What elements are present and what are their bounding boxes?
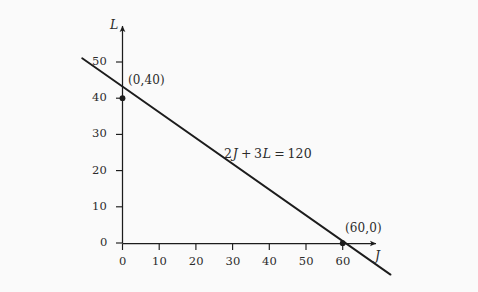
x-tick-label-60: 60 (336, 256, 351, 268)
point-label-60-0: (60,0) (345, 222, 382, 234)
y-tick-label-10: 10 (92, 201, 107, 213)
x-tick-label-30: 30 (225, 256, 240, 268)
point-marker-60-0 (340, 240, 346, 246)
x-axis-label: J (375, 250, 380, 263)
y-tick-label-50: 50 (92, 56, 107, 68)
y-axis-ticks (116, 62, 123, 243)
x-tick-label-50: 50 (299, 256, 314, 268)
equation-equals: = (272, 146, 288, 161)
x-tick-label-20: 20 (189, 256, 204, 268)
y-tick-label-0: 0 (100, 237, 108, 249)
x-axis-ticks (123, 244, 343, 251)
y-tick-label-20: 20 (92, 165, 107, 177)
equation-var-l: L (262, 146, 272, 161)
equation-rhs: 120 (287, 146, 311, 161)
y-axis-label: L (110, 19, 118, 32)
x-tick-label-40: 40 (262, 256, 277, 268)
equation-plus: + (238, 146, 254, 161)
equation-coef-l: 3 (254, 146, 262, 161)
x-tick-label-0: 0 (119, 256, 127, 268)
point-label-0-40: (0,40) (128, 74, 165, 86)
linear-equation-graph-figure: 0 10 20 30 40 50 0 10 20 30 40 50 60 L J… (0, 0, 478, 292)
equation-annotation: 2J+3L=120 (224, 148, 312, 161)
y-tick-label-40: 40 (92, 92, 107, 104)
x-tick-label-10: 10 (152, 256, 167, 268)
y-tick-label-30: 30 (92, 128, 107, 140)
point-marker-0-40 (120, 95, 126, 101)
equation-coef-j: 2 (224, 146, 232, 161)
